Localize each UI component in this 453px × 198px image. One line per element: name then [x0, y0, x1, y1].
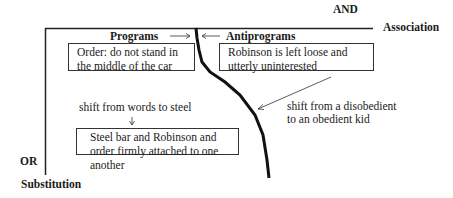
- shift-kid-label: shift from a disobedient to an obedient …: [287, 100, 397, 126]
- or-label: OR: [20, 155, 37, 168]
- robinson-box: Robinson is left loose and utterly unint…: [219, 43, 374, 71]
- order-box: Order: do not stand in the middle of the…: [68, 43, 195, 71]
- steel-box: Steel bar and Robinson and order firmly …: [76, 128, 239, 155]
- shift-words-steel-label: shift from words to steel: [79, 101, 191, 114]
- substitution-label: Substitution: [21, 178, 81, 191]
- and-label: AND: [333, 3, 358, 16]
- antiprograms-heading: Antiprograms: [226, 30, 295, 43]
- association-label: Association: [383, 21, 439, 34]
- programs-heading: Programs: [110, 30, 158, 43]
